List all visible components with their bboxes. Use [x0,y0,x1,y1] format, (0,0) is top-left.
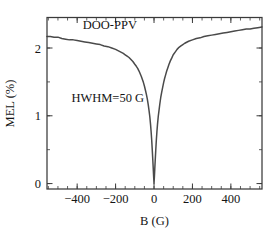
mel-data-curve [47,27,262,184]
y-tick-label: 1 [35,109,41,123]
x-tick-label: 200 [183,192,202,206]
hwhm-annotation: HWHM=50 G [71,91,144,105]
chart-figure: −400−2000200400 012 B (G) MEL (%) DOO-PP… [0,0,274,237]
y-axis-tick-labels: 012 [35,42,41,192]
y-tick-label: 0 [35,177,41,191]
mel-vs-magnetic-field-plot: −400−2000200400 012 B (G) MEL (%) DOO-PP… [0,0,274,237]
x-tick-label: 0 [151,192,157,206]
y-axis-title: MEL (%) [3,80,17,128]
y-tick-label: 2 [35,42,41,56]
x-tick-label: −200 [103,192,129,206]
sample-name-annotation: DOO-PPV [83,18,137,32]
x-axis-tick-labels: −400−2000200400 [64,192,240,206]
x-tick-label: −400 [64,192,90,206]
x-axis-title: B (G) [140,214,169,228]
x-tick-label: 400 [221,192,240,206]
